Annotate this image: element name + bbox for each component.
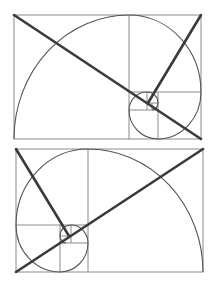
diagonal-line xyxy=(148,15,201,103)
top-panel xyxy=(0,0,214,143)
bottom-panel xyxy=(0,143,214,286)
golden-ratio-figure: Golden ratio spiral compositions xyxy=(0,0,214,286)
diagonal-line xyxy=(16,149,203,272)
diagonal-line xyxy=(16,149,69,236)
diagonal-line xyxy=(14,15,201,139)
